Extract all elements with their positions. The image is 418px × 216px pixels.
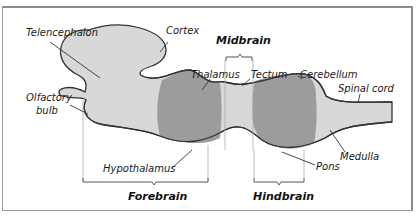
label-thalamus: Thalamus [191, 69, 240, 80]
diencephalon-region [157, 70, 221, 143]
label-olfactory-2: bulb [36, 105, 58, 116]
label-cortex: Cortex [166, 25, 199, 36]
label-hypothalamus: Hypothalamus [103, 163, 176, 174]
label-hindbrain: Hindbrain [253, 190, 314, 203]
label-spinal-cord: Spinal cord [338, 83, 395, 94]
metencephalon-region [252, 73, 316, 148]
label-medulla: Medulla [340, 151, 379, 162]
brain-diagram: Telencephalon Cortex Olfactory bulb Thal… [0, 0, 418, 216]
forebrain-brace [83, 178, 208, 185]
label-tectum: Tectum [251, 69, 288, 80]
label-midbrain: Midbrain [216, 34, 271, 47]
label-telencephalon: Telencephalon [26, 27, 98, 38]
label-forebrain: Forebrain [128, 190, 188, 203]
midbrain-brace [226, 54, 252, 61]
label-pons: Pons [316, 161, 340, 172]
label-olfactory-1: Olfactory [26, 92, 73, 103]
label-cerebellum: Cerebellum [300, 69, 358, 80]
hindbrain-brace [254, 178, 304, 185]
